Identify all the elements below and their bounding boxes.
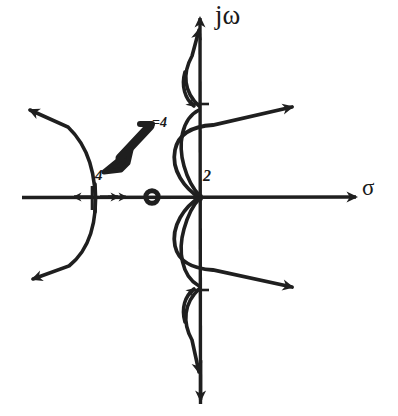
pointer-annotation-label: =4 (152, 116, 167, 130)
real-axis-label: σ (362, 176, 374, 199)
left-branches-group (30, 110, 96, 279)
imag-branches-group (181, 30, 209, 372)
root-locus-figure: jω σ 4 2 =4 (0, 0, 398, 416)
imag-axis-line (200, 18, 201, 404)
branch-imag-upper-rise (186, 30, 199, 106)
branch-imag-lower-fall (186, 289, 199, 372)
root-locus-drawing (0, 0, 398, 416)
breakaway-label: 4 (95, 168, 103, 183)
imag-axis-label: jω (215, 2, 240, 29)
annotation-pointer-group (104, 124, 152, 172)
real-axis-line (22, 197, 356, 198)
origin-label: 2 (203, 168, 211, 184)
pointer-arrow-head (104, 150, 131, 172)
